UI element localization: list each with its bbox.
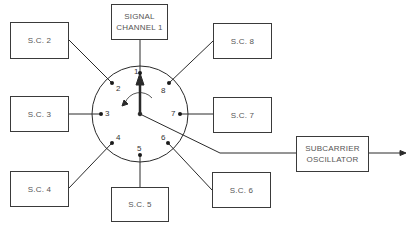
sc4-box: S.C. 4 bbox=[10, 171, 69, 207]
wiper-pivot bbox=[138, 112, 142, 116]
wire-sc6 bbox=[168, 143, 212, 190]
contact-label-2: 2 bbox=[116, 85, 120, 93]
sc2-box: S.C. 2 bbox=[10, 22, 69, 59]
oscillator-line1: SUBCARRIER bbox=[305, 143, 359, 154]
contact-label-3: 3 bbox=[105, 110, 109, 118]
wire-sc2 bbox=[69, 40, 112, 83]
contact-label-5: 5 bbox=[137, 145, 141, 153]
oscillator-line2: OSCILLATOR bbox=[307, 154, 359, 165]
sc3-label: S.C. 3 bbox=[28, 109, 51, 120]
signal-channel-1-box: SIGNAL CHANNEL 1 bbox=[111, 4, 168, 40]
sc5-label: S.C. 5 bbox=[128, 199, 151, 210]
contact-1-dot bbox=[138, 71, 142, 75]
subcarrier-oscillator-box: SUBCARRIER OSCILLATOR bbox=[296, 136, 369, 172]
sc6-box: S.C. 6 bbox=[212, 172, 271, 208]
wire-sc4 bbox=[69, 143, 112, 188]
contact-7-dot bbox=[178, 112, 182, 116]
sc3-box: S.C. 3 bbox=[10, 96, 69, 132]
sc2-label: S.C. 2 bbox=[28, 35, 51, 46]
sc7-label: S.C. 7 bbox=[231, 110, 254, 121]
contact-8-dot bbox=[167, 81, 171, 85]
sc6-label: S.C. 6 bbox=[230, 185, 253, 196]
sc5-box: S.C. 5 bbox=[111, 187, 169, 222]
contact-label-4: 4 bbox=[116, 134, 120, 142]
sc4-label: S.C. 4 bbox=[28, 184, 51, 195]
contact-label-8: 8 bbox=[161, 87, 165, 95]
rotation-arrowhead-icon bbox=[122, 100, 128, 106]
contact-6-dot bbox=[166, 141, 170, 145]
sc8-label: S.C. 8 bbox=[231, 36, 254, 47]
contact-3-dot bbox=[99, 112, 103, 116]
contact-label-7: 7 bbox=[171, 110, 175, 118]
rotation-arrow-icon bbox=[125, 93, 152, 103]
wire-sc8 bbox=[169, 41, 213, 83]
signal-channel-1-line1: SIGNAL bbox=[124, 11, 155, 22]
contact-2-dot bbox=[110, 81, 114, 85]
contact-label-1: 1 bbox=[134, 68, 138, 76]
sc7-box: S.C. 7 bbox=[213, 97, 272, 133]
signal-channel-1-line2: CHANNEL 1 bbox=[116, 22, 162, 33]
contact-4-dot bbox=[110, 141, 114, 145]
output-arrow-icon bbox=[400, 151, 406, 156]
sc8-box: S.C. 8 bbox=[213, 23, 272, 59]
contact-5-dot bbox=[138, 153, 142, 157]
contact-label-6: 6 bbox=[161, 134, 165, 142]
